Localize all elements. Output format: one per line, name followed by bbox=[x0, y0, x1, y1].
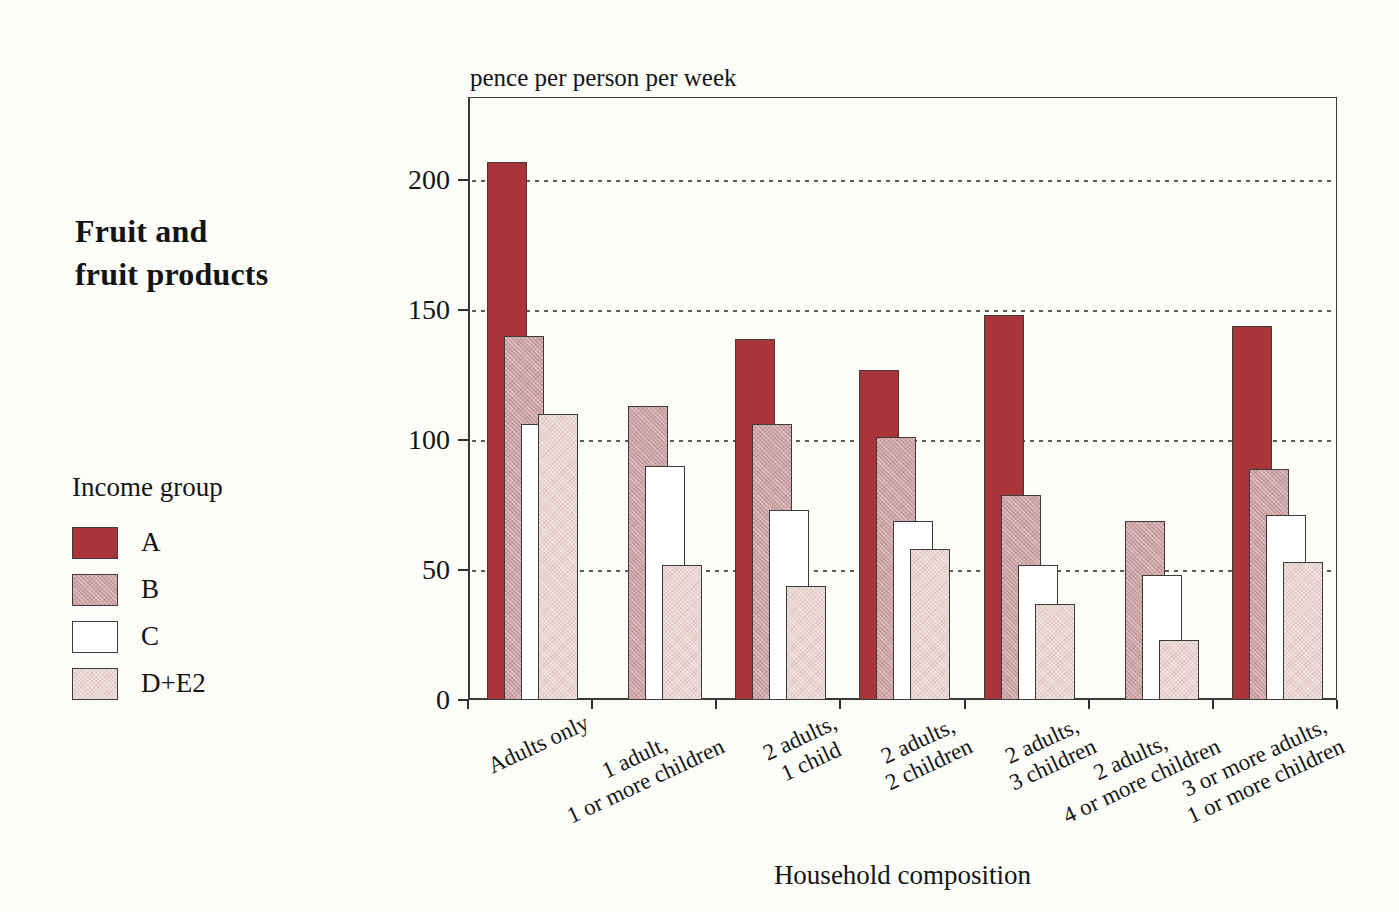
x-tick-4 bbox=[964, 700, 966, 709]
y-tick-150 bbox=[458, 309, 468, 311]
y-tick-label-0: 0 bbox=[380, 684, 450, 716]
y-tick-label-200: 200 bbox=[380, 164, 450, 196]
chart-title-line2: fruit products bbox=[75, 253, 268, 296]
bar-D+E2-group6 bbox=[1159, 640, 1199, 700]
y-tick-label-50: 50 bbox=[380, 554, 450, 586]
legend-swatch-C bbox=[72, 621, 118, 653]
bar-D+E2-group2 bbox=[662, 565, 702, 700]
y-tick-label-100: 100 bbox=[380, 424, 450, 456]
x-tick-2 bbox=[715, 700, 717, 709]
chart-title: Fruit and fruit products bbox=[75, 210, 268, 296]
page: Fruit and fruit products Income group AB… bbox=[0, 0, 1399, 912]
bar-D+E2-group4 bbox=[910, 549, 950, 700]
x-category-label-4: 2 adults,2 children bbox=[871, 710, 977, 796]
legend-label-D+E2: D+E2 bbox=[141, 667, 206, 700]
legend-swatch-B bbox=[72, 574, 118, 606]
bar-D+E2-group1 bbox=[538, 414, 578, 700]
x-tick-0 bbox=[467, 700, 469, 709]
bar-D+E2-group3 bbox=[786, 586, 826, 700]
bar-D+E2-group5 bbox=[1035, 604, 1075, 700]
legend-label-B: B bbox=[141, 573, 159, 606]
gridline-150 bbox=[472, 310, 1335, 312]
legend-swatch-A bbox=[72, 527, 118, 559]
legend-item-C: C bbox=[72, 620, 206, 653]
legend-item-D+E2: D+E2 bbox=[72, 667, 206, 700]
bar-D+E2-group7 bbox=[1283, 562, 1323, 700]
legend-label-A: A bbox=[141, 526, 161, 559]
x-tick-1 bbox=[591, 700, 593, 709]
x-tick-7 bbox=[1336, 700, 1338, 709]
legend-swatch-D+E2 bbox=[72, 668, 118, 700]
legend-title: Income group bbox=[72, 472, 223, 503]
x-axis-title: Household composition bbox=[468, 860, 1337, 891]
x-category-label-line: Adults only bbox=[484, 710, 593, 779]
y-axis-unit-label: pence per person per week bbox=[470, 64, 737, 92]
legend: ABCD+E2 bbox=[72, 526, 206, 714]
chart-figure: Household composition 050100150200Adults… bbox=[468, 97, 1337, 700]
chart-title-line1: Fruit and bbox=[75, 210, 268, 253]
legend-item-B: B bbox=[72, 573, 206, 606]
y-tick-200 bbox=[458, 179, 468, 181]
x-tick-5 bbox=[1088, 700, 1090, 709]
legend-item-A: A bbox=[72, 526, 206, 559]
x-category-label-3: 2 adults,1 child bbox=[760, 710, 853, 790]
x-category-label-1: Adults only bbox=[484, 710, 593, 779]
gridline-200 bbox=[472, 180, 1335, 182]
y-tick-label-150: 150 bbox=[380, 294, 450, 326]
y-tick-100 bbox=[458, 439, 468, 441]
x-tick-6 bbox=[1212, 700, 1214, 709]
y-tick-50 bbox=[458, 569, 468, 571]
x-tick-3 bbox=[839, 700, 841, 709]
legend-label-C: C bbox=[141, 620, 159, 653]
